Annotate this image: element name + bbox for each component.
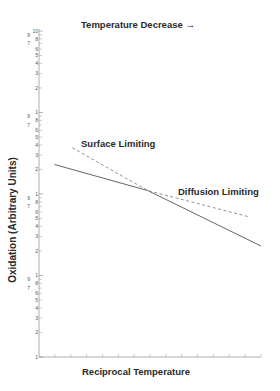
- chart-plot: 12345678912345678912345678912345678910: [0, 0, 280, 391]
- svg-text:1: 1: [35, 191, 38, 197]
- svg-text:2: 2: [35, 329, 38, 335]
- svg-text:6: 6: [35, 209, 38, 215]
- svg-text:4: 4: [35, 305, 38, 311]
- svg-text:1: 1: [35, 354, 38, 360]
- svg-text:2: 2: [35, 166, 38, 172]
- svg-text:5: 5: [35, 297, 38, 303]
- svg-text:2: 2: [35, 85, 38, 91]
- series: [55, 148, 262, 246]
- svg-text:3: 3: [35, 70, 38, 76]
- svg-text:6: 6: [35, 290, 38, 296]
- svg-text:4: 4: [35, 142, 38, 148]
- svg-text:5: 5: [35, 215, 38, 221]
- svg-text:3: 3: [35, 233, 38, 239]
- svg-text:1: 1: [35, 109, 38, 115]
- svg-text:8: 8: [35, 199, 38, 205]
- svg-text:8: 8: [35, 36, 38, 42]
- svg-text:2: 2: [35, 248, 38, 254]
- svg-text:7: 7: [27, 285, 30, 291]
- svg-text:4: 4: [35, 60, 38, 66]
- dashed-line: [72, 148, 247, 217]
- svg-text:8: 8: [35, 117, 38, 123]
- svg-text:7: 7: [27, 122, 30, 128]
- svg-text:5: 5: [35, 52, 38, 58]
- svg-text:10: 10: [32, 28, 38, 34]
- svg-text:9: 9: [27, 276, 30, 282]
- svg-text:9: 9: [27, 195, 30, 201]
- svg-text:1: 1: [35, 272, 38, 278]
- svg-text:6: 6: [35, 46, 38, 52]
- svg-text:8: 8: [35, 280, 38, 286]
- svg-text:3: 3: [35, 152, 38, 158]
- svg-text:7: 7: [27, 40, 30, 46]
- axes: 12345678912345678912345678912345678910: [27, 28, 261, 360]
- svg-text:4: 4: [35, 223, 38, 229]
- svg-text:3: 3: [35, 315, 38, 321]
- svg-text:9: 9: [27, 32, 30, 38]
- svg-text:5: 5: [35, 134, 38, 140]
- svg-text:6: 6: [35, 127, 38, 133]
- svg-text:9: 9: [27, 113, 30, 119]
- svg-text:7: 7: [27, 203, 30, 209]
- solid-line: [55, 165, 262, 247]
